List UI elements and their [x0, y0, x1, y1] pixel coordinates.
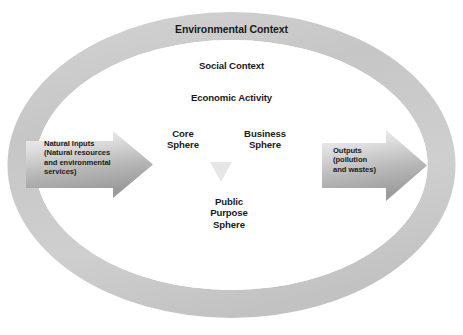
- business-sphere-label: Business Sphere: [225, 128, 305, 151]
- core-sphere-label: Core Sphere: [147, 128, 219, 151]
- outputs-label: Outputs (pollution and wastes): [333, 146, 411, 174]
- diagram-canvas: Environmental Context Social Context Eco…: [0, 0, 463, 335]
- public-purpose-sphere-label: Public Purpose Sphere: [186, 196, 272, 230]
- natural-inputs-label: Natural Inputs (Natural resources and en…: [44, 139, 134, 176]
- social-context-label: Social Context: [0, 60, 463, 71]
- economic-activity-label: Economic Activity: [0, 92, 463, 103]
- environmental-context-label: Environmental Context: [0, 23, 463, 35]
